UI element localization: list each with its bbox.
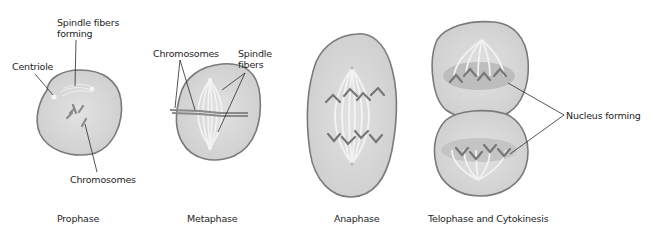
metaphase-cell — [170, 60, 260, 160]
label-line: Spindle — [238, 48, 272, 59]
label-line: Spindle fibers — [57, 17, 119, 28]
label-spindle-fibers-forming: Spindle fibers forming — [57, 17, 119, 39]
label-line: forming — [57, 28, 119, 39]
caption-anaphase: Anaphase — [334, 213, 379, 224]
label-nucleus-forming: Nucleus forming — [566, 110, 641, 121]
caption-telophase-cytokinesis: Telophase and Cytokinesis — [428, 213, 548, 224]
label-centriole: Centriole — [12, 61, 53, 72]
prophase-cell — [35, 40, 122, 172]
anaphase-cell — [308, 34, 397, 197]
caption-metaphase: Metaphase — [187, 213, 237, 224]
caption-prophase: Prophase — [57, 213, 99, 224]
label-spindle-fibers: Spindle fibers — [238, 48, 272, 70]
centriole — [52, 95, 57, 100]
label-chromosomes-metaphase: Chromosomes — [153, 48, 219, 59]
telophase-cells — [432, 22, 564, 196]
label-chromosomes-prophase: Chromosomes — [70, 174, 136, 185]
label-line: fibers — [238, 59, 272, 70]
